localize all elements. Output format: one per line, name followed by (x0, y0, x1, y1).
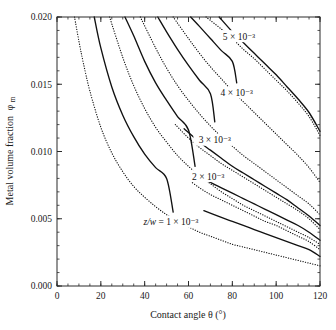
x-tick-label: 20 (96, 291, 106, 301)
y-axis-title-group: Metal volume fraction φ m (4, 96, 17, 205)
curve-label: 5 × 10⁻³ (223, 32, 255, 42)
data-curve (94, 17, 173, 212)
y-axis-minor-ticks (57, 17, 320, 286)
x-axis-tick-labels: 020406080100120 (55, 291, 328, 301)
data-curve (191, 17, 237, 83)
data-curve (110, 17, 320, 244)
y-tick-label: 0.005 (31, 214, 53, 224)
curve-label: 3 × 10⁻³ (199, 135, 231, 145)
y-axis-major-ticks (57, 17, 320, 286)
curve-label: 2 × 10⁻³ (192, 172, 224, 182)
y-axis-tick-labels: 0.0000.0050.0100.0150.020 (31, 12, 53, 291)
plot-frame (57, 17, 320, 286)
y-axis-title: Metal volume fraction φ m (4, 96, 17, 205)
y-tick-label: 0.020 (31, 12, 53, 22)
data-curve (204, 211, 320, 257)
y-tick-label: 0.010 (31, 147, 53, 157)
data-curve (125, 17, 195, 166)
x-tick-label: 40 (140, 291, 150, 301)
curve-label: 4 × 10⁻³ (221, 88, 253, 98)
data-curve (140, 17, 320, 215)
y-tick-label: 0.015 (31, 80, 53, 90)
x-axis-minor-ticks (57, 17, 320, 286)
x-axis-title: Contact angle θ (°) (150, 309, 226, 321)
x-tick-label: 60 (184, 291, 194, 301)
data-curve (158, 17, 215, 122)
curve-label: z/w = 1 × 10⁻³ (142, 217, 198, 227)
x-tick-label: 80 (228, 291, 238, 301)
x-tick-label: 0 (55, 291, 60, 301)
figure-container: 020406080100120 0.0000.0050.0100.0150.02… (0, 0, 336, 330)
data-curve (189, 180, 321, 250)
chart-canvas: 020406080100120 0.0000.0050.0100.0150.02… (0, 0, 336, 330)
x-axis-major-ticks (57, 17, 320, 286)
y-tick-label: 0.000 (31, 281, 53, 291)
x-tick-label: 100 (269, 291, 284, 301)
x-tick-label: 120 (313, 291, 328, 301)
